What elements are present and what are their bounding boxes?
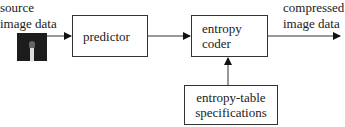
arrows	[0, 0, 345, 127]
